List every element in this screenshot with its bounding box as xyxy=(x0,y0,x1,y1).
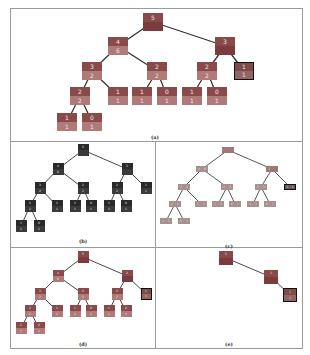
node-count: 1 xyxy=(86,311,97,317)
tree-node: 11 xyxy=(57,113,77,131)
node-value: 1 xyxy=(235,63,253,71)
tree-node: 5 xyxy=(219,251,233,265)
node-value: 5 xyxy=(143,13,163,22)
node-count xyxy=(228,147,234,153)
node-value: 4 xyxy=(108,37,128,46)
tree-node: 11 xyxy=(132,87,152,105)
node-count: 1 xyxy=(16,328,27,334)
node-count: 6 xyxy=(202,166,208,172)
tree-node: 46 xyxy=(196,166,208,172)
tree-node: 46 xyxy=(53,270,64,282)
node-value: 3 xyxy=(264,270,278,277)
node-count: 1 xyxy=(34,328,45,334)
node-count: 2 xyxy=(227,184,233,190)
node-count: 1 xyxy=(182,96,202,105)
tree-node: 01 xyxy=(229,201,241,207)
tree-node: 01 xyxy=(121,200,132,212)
tree-node: 11 xyxy=(108,87,128,105)
edges-layer xyxy=(0,0,310,355)
tree-node: 11 xyxy=(141,288,152,300)
node-count: 1 xyxy=(142,294,151,299)
tree-node: 22 xyxy=(112,182,123,194)
node-count xyxy=(219,258,233,265)
node-value: 2 xyxy=(147,62,167,71)
tree-node: 3 xyxy=(266,166,278,172)
tree-node: 11 xyxy=(284,184,296,190)
node-value: 3 xyxy=(215,37,235,46)
node-count: 1 xyxy=(108,96,128,105)
node-count: 2 xyxy=(82,71,102,80)
tree-node: 11 xyxy=(52,200,63,212)
tree-node: 11 xyxy=(70,305,81,317)
tree-node: 3 xyxy=(122,270,133,282)
node-count: 2 xyxy=(112,294,123,300)
tree-node xyxy=(222,147,234,153)
tree-node: 11 xyxy=(52,305,63,317)
node-value: 0 xyxy=(157,87,177,96)
node-value: 3 xyxy=(82,62,102,71)
tree-node: 11 xyxy=(104,200,115,212)
node-count: 1 xyxy=(166,218,172,224)
node-count: 2 xyxy=(78,294,89,300)
panel-caption-d: (d) xyxy=(79,341,87,347)
tree-node: 01 xyxy=(86,305,97,317)
node-count: 1 xyxy=(184,218,190,224)
node-count: 2 xyxy=(147,71,167,80)
node-value: 5 xyxy=(219,251,233,258)
node-count: 1 xyxy=(290,185,295,189)
node-count xyxy=(122,276,133,282)
tree-node: 22 xyxy=(78,182,89,194)
panel-caption-a: (a) xyxy=(151,134,159,140)
tree-node: 46 xyxy=(53,163,64,175)
node-count: 2 xyxy=(25,311,36,317)
tree-node: 11 xyxy=(195,201,207,207)
node-count: 2 xyxy=(70,96,90,105)
tree-node: 11 xyxy=(16,220,27,232)
node-count: 1 xyxy=(207,96,227,105)
tree-node: 3 xyxy=(264,270,278,284)
node-count xyxy=(264,277,278,284)
tree-node: 32 xyxy=(35,288,46,300)
node-count: 2 xyxy=(197,71,217,80)
tree-node: 11 xyxy=(16,322,27,334)
node-count: 1 xyxy=(86,206,97,212)
tree-node: 11 xyxy=(212,201,224,207)
tree-node: 11 xyxy=(182,87,202,105)
tree-node: 01 xyxy=(34,220,45,232)
tree-node: 5 xyxy=(78,251,89,263)
tree-node: 11 xyxy=(247,201,259,207)
tree-node: 11 xyxy=(104,305,115,317)
tree-node: 11 xyxy=(70,200,81,212)
tree-node: 11 xyxy=(234,62,254,80)
tree-node: 01 xyxy=(86,200,97,212)
node-count xyxy=(272,166,278,172)
tree-node: 11 xyxy=(283,288,297,302)
node-count: 1 xyxy=(157,96,177,105)
node-count: 6 xyxy=(108,46,128,55)
tree-node: 32 xyxy=(35,182,46,194)
node-count xyxy=(78,257,89,263)
tree-node: 3 xyxy=(215,37,235,55)
tree-node: 22 xyxy=(169,201,181,207)
node-count: 2 xyxy=(261,184,267,190)
node-count xyxy=(78,150,89,156)
node-count: 2 xyxy=(184,184,190,190)
node-count: 2 xyxy=(35,294,46,300)
node-count xyxy=(122,169,133,175)
node-count: 1 xyxy=(284,295,296,301)
tree-node: 22 xyxy=(221,184,233,190)
panel-caption-e: (e) xyxy=(225,341,233,347)
node-count: 1 xyxy=(34,226,45,232)
node-count: 1 xyxy=(270,201,276,207)
node-count: 1 xyxy=(253,201,259,207)
node-value: 0 xyxy=(207,87,227,96)
tree-node: 22 xyxy=(255,184,267,190)
tree-node: 22 xyxy=(197,62,217,80)
node-value: 0 xyxy=(82,113,102,122)
tree-node: 32 xyxy=(178,184,190,190)
node-count: 1 xyxy=(218,201,224,207)
tree-node: 22 xyxy=(112,288,123,300)
panel-caption-c: (c) xyxy=(225,243,233,249)
tree-node: 01 xyxy=(34,322,45,334)
node-count: 1 xyxy=(52,311,63,317)
